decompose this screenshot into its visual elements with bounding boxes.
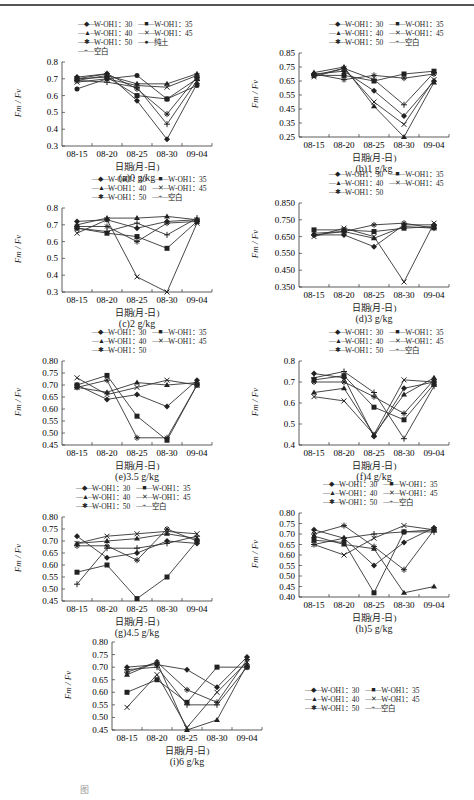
x-tick-label: 08-25 xyxy=(364,290,385,300)
y-tick-label: 0.60 xyxy=(42,404,58,414)
data-point-marker xyxy=(401,385,407,391)
y-tick-label: 0.80 xyxy=(279,508,295,518)
series-line xyxy=(314,530,434,593)
chart-panel-b: —◆—W-OH1：30—■—W-OH1：35—▲—W-OH1：40—✕—W-OH… xyxy=(247,20,472,180)
data-point-marker xyxy=(402,279,407,284)
panel-caption: (d)3 g/kg xyxy=(299,313,449,324)
line-chart: 0.80.70.60.50.408-1508-2008-2508-3009-04 xyxy=(247,328,472,459)
data-point-marker xyxy=(215,690,220,695)
y-tick-label: 0.70 xyxy=(42,380,58,390)
data-point-marker xyxy=(164,232,170,238)
y-tick-label: 0.75 xyxy=(92,650,108,660)
y-tick-label: 0.50 xyxy=(42,428,58,438)
x-tick-label: 09-04 xyxy=(424,448,445,458)
x-tick-label: 08-30 xyxy=(394,290,415,300)
y-tick-label: 0.70 xyxy=(42,536,58,546)
data-point-marker xyxy=(371,222,377,228)
y-tick-label: 0.65 xyxy=(42,392,58,402)
data-point-marker xyxy=(214,717,220,722)
y-tick-label: 0.50 xyxy=(92,712,108,722)
y-tick-label: 0.55 xyxy=(42,416,58,426)
y-tick-label: 0.8 xyxy=(47,203,59,213)
figure-caption: 图 xyxy=(80,783,91,796)
y-tick-label: 0.85 xyxy=(279,48,295,58)
data-point-marker xyxy=(135,274,140,279)
y-tick-label: 0.750 xyxy=(275,215,296,225)
data-point-marker xyxy=(341,523,347,529)
x-tick-label: 08-20 xyxy=(147,733,168,743)
x-tick-label: 09-04 xyxy=(187,604,208,614)
data-point-marker xyxy=(215,665,220,670)
data-point-marker xyxy=(372,405,377,410)
y-tick-label: 0.80 xyxy=(42,356,58,366)
panel-caption: (e)3.5 g/kg xyxy=(62,471,212,482)
data-point-marker xyxy=(74,543,80,549)
data-point-marker xyxy=(341,385,347,390)
x-tick-label: 08-15 xyxy=(304,448,325,458)
chart-panel-f: —◆—W-OH1：30—■—W-OH1：35—▲—W-OH1：40—✕—W-OH… xyxy=(247,328,472,488)
x-tick-label: 08-20 xyxy=(334,140,355,150)
legend-label: W-OH1：50 xyxy=(321,704,359,713)
data-point-marker xyxy=(135,414,140,419)
x-tick-label: 08-30 xyxy=(394,448,415,458)
series-line xyxy=(77,380,197,438)
y-axis-label: Fm / Fv xyxy=(13,235,23,264)
legend-marker-icon: —✕— xyxy=(365,695,379,704)
y-tick-label: 0.350 xyxy=(275,282,296,292)
data-point-marker xyxy=(311,531,317,537)
line-chart: 0.80.70.60.50.40.308-1508-2008-2508-3009… xyxy=(10,175,235,306)
y-tick-label: 0.65 xyxy=(279,540,295,550)
axes xyxy=(299,513,449,597)
y-tick-label: 0.8 xyxy=(47,57,59,67)
y-tick-label: 0.5 xyxy=(47,253,59,263)
line-chart: 0.8500.7500.6500.5500.4500.35008-1508-20… xyxy=(247,170,472,301)
x-tick-label: 08-30 xyxy=(157,295,178,305)
x-tick-label: 08-20 xyxy=(97,149,118,159)
data-point-marker xyxy=(105,563,110,568)
y-tick-label: 0.25 xyxy=(279,132,295,142)
data-point-marker xyxy=(134,239,140,245)
data-point-marker xyxy=(184,667,190,673)
legend-item: —+—空白 xyxy=(365,704,395,713)
y-axis-label: Fm / Fv xyxy=(250,230,260,259)
x-tick-label: 09-04 xyxy=(237,733,258,743)
y-tick-label: 0.75 xyxy=(279,62,295,72)
y-tick-label: 0.5 xyxy=(284,419,296,429)
y-tick-label: 0.50 xyxy=(42,584,58,594)
y-axis-label: Fm / Fv xyxy=(13,388,23,417)
y-tick-label: 0.7 xyxy=(47,74,59,84)
chart-panel-e: —◆—W-OH1：30—■—W-OH1：35—▲—W-OH1：40—✕—W-OH… xyxy=(10,328,235,488)
legend-item: —■—W-OH1：35 xyxy=(365,686,419,695)
y-tick-label: 0.8 xyxy=(284,356,296,366)
y-tick-label: 0.55 xyxy=(279,90,295,100)
y-tick-label: 0.80 xyxy=(42,512,58,522)
line-chart: 0.800.750.700.650.600.550.500.4508-1508-… xyxy=(10,328,235,459)
y-tick-label: 0.6 xyxy=(47,91,59,101)
x-tick-label: 08-25 xyxy=(127,448,148,458)
legend-marker-icon: —+— xyxy=(365,704,379,713)
data-point-marker xyxy=(155,672,160,677)
data-point-marker xyxy=(135,234,140,239)
y-tick-label: 0.650 xyxy=(275,232,296,242)
y-tick-label: 0.65 xyxy=(92,675,108,685)
x-tick-label: 09-04 xyxy=(424,140,445,150)
y-tick-label: 0.75 xyxy=(42,524,58,534)
y-tick-label: 0.65 xyxy=(279,76,295,86)
data-point-marker xyxy=(371,390,377,396)
series-line xyxy=(127,660,247,703)
y-tick-label: 0.7 xyxy=(47,220,59,230)
data-point-marker xyxy=(135,93,140,98)
y-tick-label: 0.35 xyxy=(279,118,295,128)
y-tick-label: 0.4 xyxy=(47,124,59,134)
y-tick-label: 0.50 xyxy=(279,571,295,581)
data-point-marker xyxy=(341,379,347,385)
chart-panel-c: —◆—W-OH1：30—■—W-OH1：35—▲—W-OH1：40—✕—W-OH… xyxy=(10,175,235,335)
y-tick-label: 0.80 xyxy=(92,637,108,647)
data-point-marker xyxy=(402,417,407,422)
data-point-marker xyxy=(371,244,377,250)
y-tick-label: 0.65 xyxy=(42,548,58,558)
x-tick-label: 08-30 xyxy=(157,448,178,458)
data-point-marker xyxy=(165,575,170,580)
x-tick-label: 08-25 xyxy=(364,600,385,610)
x-tick-label: 08-30 xyxy=(157,149,178,159)
